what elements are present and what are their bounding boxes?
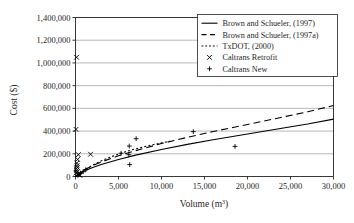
data-point-marker-x bbox=[76, 152, 81, 157]
chart-legend: Brown and Schueler, (1997)Brown and Schu… bbox=[198, 15, 338, 77]
chart-figure: 0200,000400,000600,000800,0001,000,0001,… bbox=[0, 0, 354, 223]
legend-label: Brown and Schueler, (1997) bbox=[223, 19, 316, 28]
scatter-line-chart: 0200,000400,000600,000800,0001,000,0001,… bbox=[0, 0, 354, 223]
data-point-marker-x bbox=[74, 55, 79, 60]
x-tick-label: 5,000 bbox=[109, 181, 128, 191]
x-axis-title-base: Volume (m bbox=[180, 199, 223, 210]
y-axis-tick-labels: 0200,000400,000600,000800,0001,000,0001,… bbox=[37, 13, 71, 182]
data-point-marker-plus bbox=[119, 151, 124, 156]
data-point-marker-plus bbox=[127, 162, 132, 167]
y-tick-label: 600,000 bbox=[43, 103, 71, 113]
x-tick-label: 25,000 bbox=[279, 181, 302, 191]
y-tick-label: 1,400,000 bbox=[37, 13, 71, 23]
legend-label: Caltrans Retrofit bbox=[223, 53, 279, 62]
x-tick-label: 30,000 bbox=[322, 181, 345, 191]
data-point-marker-plus bbox=[127, 144, 132, 149]
series-line-solid bbox=[76, 119, 334, 176]
y-tick-label: 200,000 bbox=[43, 149, 71, 159]
legend-label: Brown and Schueler, (1997a) bbox=[223, 31, 319, 40]
x-axis-title-tail: ) bbox=[225, 199, 228, 210]
x-tick-label: 15,000 bbox=[193, 181, 216, 191]
y-tick-label: 400,000 bbox=[43, 126, 71, 136]
y-tick-label: 1,000,000 bbox=[37, 58, 71, 68]
x-axis-tick-labels: 05,00010,00015,00020,00025,00030,000 bbox=[73, 181, 345, 191]
x-tick-label: 10,000 bbox=[150, 181, 173, 191]
data-point-marker-x bbox=[88, 152, 93, 157]
legend-label: Caltrans New bbox=[223, 65, 268, 74]
data-point-marker-plus bbox=[233, 144, 238, 149]
y-tick-label: 0 bbox=[66, 172, 70, 182]
x-tick-label: 20,000 bbox=[236, 181, 259, 191]
y-tick-label: 1,200,000 bbox=[37, 35, 71, 45]
legend-label: TxDOT, (2000) bbox=[223, 42, 275, 51]
data-point-marker-plus bbox=[191, 129, 196, 134]
x-axis-title: Volume (m3) bbox=[180, 199, 228, 211]
y-axis-title: Cost ($) bbox=[9, 85, 20, 116]
y-tick-label: 800,000 bbox=[43, 81, 71, 91]
x-tick-label: 0 bbox=[73, 181, 77, 191]
data-point-marker-plus bbox=[134, 136, 139, 141]
